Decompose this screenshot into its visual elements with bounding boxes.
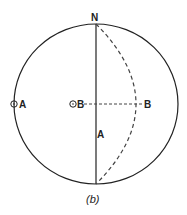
north-label: N [91, 12, 98, 23]
pole-a-dot [13, 103, 15, 105]
pole-a-label: A [19, 99, 26, 110]
point-b-label: B [144, 99, 151, 110]
pole-b-dot [72, 103, 74, 105]
stereonet-diagram: N A B B A (b) [0, 0, 187, 215]
pole-b-label: B [77, 99, 84, 110]
line-a-label: A [97, 129, 104, 140]
figure-caption: (b) [86, 193, 100, 205]
